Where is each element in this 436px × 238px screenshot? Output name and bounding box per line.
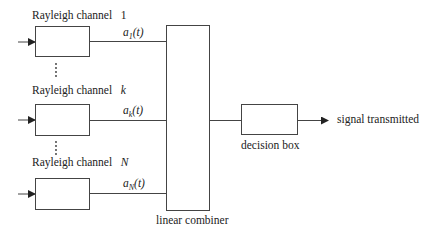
channel-label-N: Rayleigh channel N xyxy=(32,157,128,169)
channel-label-text: Rayleigh channel xyxy=(32,84,112,96)
channel-box-N xyxy=(36,179,90,210)
channel-index: N xyxy=(121,156,129,168)
channel-label-text: Rayleigh channel xyxy=(32,9,112,21)
weight-arg: (t) xyxy=(133,26,144,38)
linear-combiner-box xyxy=(167,26,210,211)
decision-box-label: decision box xyxy=(241,140,299,152)
weight-label-1: a1(t) xyxy=(123,27,144,41)
signal-transmitted-label: signal transmitted xyxy=(337,114,419,126)
weight-arg: (t) xyxy=(134,177,145,189)
linear-combiner-label: linear combiner xyxy=(156,215,228,227)
ellipsis-dots-2 xyxy=(55,141,57,155)
weight-arg: (t) xyxy=(132,104,143,116)
channel-box-k xyxy=(36,105,90,136)
channel-label-1: Rayleigh channel 1 xyxy=(32,10,127,22)
channel-box-1 xyxy=(36,27,90,57)
channel-label-text: Rayleigh channel xyxy=(32,156,112,168)
channel-label-k: Rayleigh channel k xyxy=(32,85,126,97)
ellipsis-dots-1 xyxy=(55,63,57,77)
channel-index: k xyxy=(121,84,126,96)
weight-label-k: ak(t) xyxy=(123,105,143,119)
channel-index: 1 xyxy=(121,9,127,21)
weight-label-N: aN(t) xyxy=(123,178,145,192)
decision-box xyxy=(242,105,298,135)
